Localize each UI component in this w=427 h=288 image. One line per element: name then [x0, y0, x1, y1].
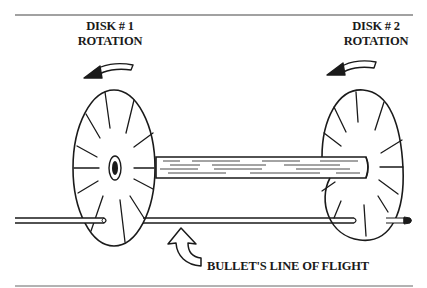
- disk2-rotation-arrow-icon: [327, 61, 376, 75]
- bullet-pointer-arrow-icon: [168, 228, 201, 266]
- disk1-title: DISK # 1: [68, 19, 152, 34]
- disk1-rotation-label: DISK # 1 ROTATION: [68, 19, 152, 49]
- disk2-title: DISK # 2: [334, 19, 418, 34]
- axle: [156, 157, 368, 178]
- disk2-subtitle: ROTATION: [334, 34, 418, 49]
- disk1-subtitle: ROTATION: [68, 34, 152, 49]
- disk1-rotation-arrow-icon: [84, 64, 133, 78]
- bullet-line: [15, 217, 412, 224]
- bullet-line-label: BULLET'S LINE OF FLIGHT: [207, 259, 369, 274]
- diagram-canvas: DISK # 1 ROTATION DISK # 2 ROTATION BULL…: [0, 0, 427, 288]
- disk2-rotation-label: DISK # 2 ROTATION: [334, 19, 418, 49]
